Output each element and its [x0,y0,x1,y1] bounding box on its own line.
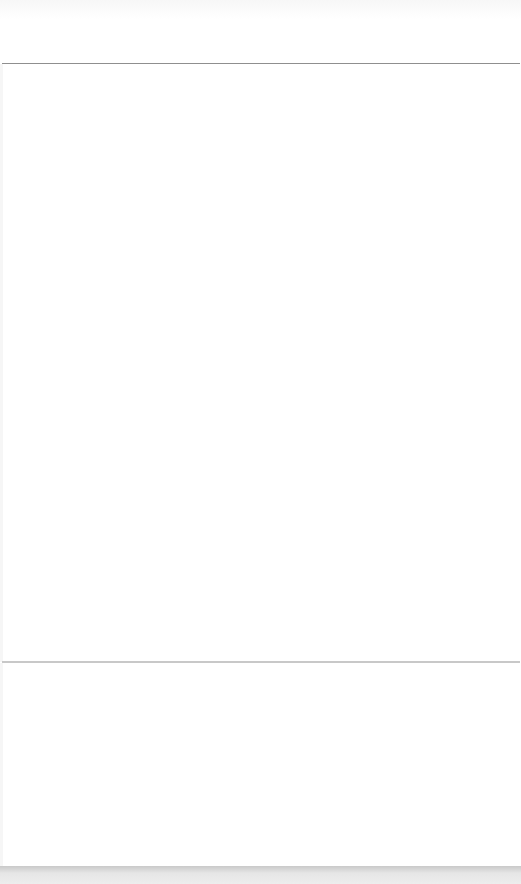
header-region [0,0,521,63]
bottom-bar [0,866,521,884]
footer-region [0,663,521,866]
footer-text [3,663,521,671]
main-content-area [0,64,521,662]
header-title [0,0,521,8]
content-text [3,64,521,72]
